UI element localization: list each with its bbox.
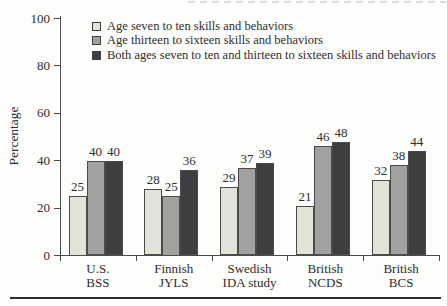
legend-swatch — [92, 22, 101, 31]
category-label: SwedishIDA study — [212, 262, 288, 289]
y-tick-label: 40 — [16, 154, 50, 168]
bar — [220, 187, 238, 256]
bar — [144, 189, 162, 255]
legend-row: Both ages seven to ten and thirteen to s… — [92, 49, 436, 62]
bar-value-label: 48 — [327, 126, 355, 140]
x-tick-mark — [60, 256, 61, 261]
bar — [296, 206, 314, 256]
legend-row: Age thirteen to sixteen skills and behav… — [92, 35, 436, 48]
bar — [162, 196, 180, 255]
bar-value-label: 25 — [64, 180, 92, 194]
y-tick-mark — [54, 160, 60, 161]
x-tick-mark — [287, 256, 288, 261]
bar-value-label: 39 — [251, 147, 279, 161]
bar-value-label: 36 — [175, 154, 203, 168]
bar — [87, 161, 105, 256]
y-tick-label: 20 — [16, 201, 50, 215]
bar-value-label: 32 — [367, 164, 395, 178]
bar-value-label: 29 — [215, 171, 243, 185]
legend: Age seven to ten skills and behaviorsAge… — [92, 20, 436, 64]
y-axis-line — [60, 16, 61, 256]
category-label: FinnishJYLS — [136, 262, 212, 289]
legend-label: Age seven to ten skills and behaviors — [107, 19, 293, 34]
bar-value-label: 40 — [100, 145, 128, 159]
category-label: BritishBCS — [363, 262, 439, 289]
x-tick-mark — [363, 256, 364, 261]
bar — [69, 196, 87, 255]
x-tick-mark — [439, 256, 440, 261]
bottom-rule — [10, 297, 441, 299]
bar — [408, 151, 426, 255]
y-tick-label: 100 — [16, 12, 50, 26]
bar-chart-figure: Percentage 020406080100 2528292132402537… — [0, 0, 447, 306]
y-tick-mark — [54, 208, 60, 209]
y-tick-mark — [54, 65, 60, 66]
y-tick-label: 80 — [16, 59, 50, 73]
bar-value-label: 44 — [403, 135, 431, 149]
bar — [105, 161, 123, 256]
bar-value-label: 38 — [385, 149, 413, 163]
y-tick-label: 60 — [16, 106, 50, 120]
bar — [390, 165, 408, 255]
bar-value-label: 21 — [291, 190, 319, 204]
y-tick-mark — [54, 113, 60, 114]
legend-row: Age seven to ten skills and behaviors — [92, 20, 436, 33]
category-label: U.S.BSS — [60, 262, 136, 289]
legend-swatch — [92, 51, 101, 60]
bar — [332, 142, 350, 256]
y-tick-label: 0 — [16, 249, 50, 263]
bar — [372, 180, 390, 256]
legend-label: Age thirteen to sixteen skills and behav… — [107, 33, 323, 48]
category-label: BritishNCDS — [287, 262, 363, 289]
x-tick-mark — [212, 256, 213, 261]
legend-swatch — [92, 36, 101, 45]
scan-artifact-line — [188, 1, 446, 3]
legend-label: Both ages seven to ten and thirteen to s… — [107, 48, 436, 63]
bar — [256, 163, 274, 255]
bar-value-label: 25 — [157, 180, 185, 194]
x-tick-mark — [136, 256, 137, 261]
y-tick-mark — [54, 18, 60, 19]
